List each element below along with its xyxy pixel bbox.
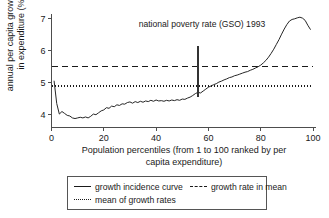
- legend-swatch-dotted-icon: [74, 196, 91, 203]
- y-tick-label: 7: [40, 14, 45, 24]
- x-tick-label: 0: [49, 133, 54, 143]
- x-tick-label: 100: [305, 133, 320, 143]
- chart-legend: growth incidence curve growth rate in me…: [67, 176, 267, 210]
- legend-swatch-dashed-icon: [190, 183, 207, 190]
- x-tick-label: 20: [99, 133, 109, 143]
- x-axis-title-line-1: Population percentiles (from 1 to 100 ra…: [82, 145, 287, 155]
- legend-entry-mean-of-growth-rates: mean of growth rates: [74, 195, 176, 205]
- y-tick-label: 6: [40, 46, 45, 56]
- legend-swatch-solid-icon: [74, 183, 91, 190]
- y-tick-label: 5: [40, 78, 45, 88]
- growth-incidence-chart-figure: annual per capita growth rate in expendi…: [0, 0, 329, 218]
- legend-label-growth-incidence-curve: growth incidence curve: [95, 182, 183, 192]
- growth-incidence-curve-line: [54, 17, 310, 118]
- legend-row-2: mean of growth rates: [74, 193, 261, 206]
- y-tick-label: 4: [40, 110, 45, 120]
- x-tick-label: 40: [151, 133, 161, 143]
- legend-entry-growth-rate-in-mean: growth rate in mean: [190, 182, 287, 192]
- x-axis-ticks: 020406080100: [49, 128, 321, 144]
- legend-label-growth-rate-in-mean: growth rate in mean: [211, 182, 287, 192]
- x-tick-label: 80: [256, 133, 266, 143]
- legend-entry-growth-incidence-curve: growth incidence curve: [74, 182, 183, 192]
- legend-row-1: growth incidence curve growth rate in me…: [74, 180, 261, 193]
- x-axis-title-line-2: capita expenditure): [146, 157, 223, 167]
- y-axis-ticks: 4567: [40, 14, 51, 120]
- national-poverty-rate-annotation: national poverty rate (GSO) 1993: [139, 19, 266, 29]
- x-tick-label: 60: [203, 133, 213, 143]
- legend-label-mean-of-growth-rates: mean of growth rates: [95, 195, 176, 205]
